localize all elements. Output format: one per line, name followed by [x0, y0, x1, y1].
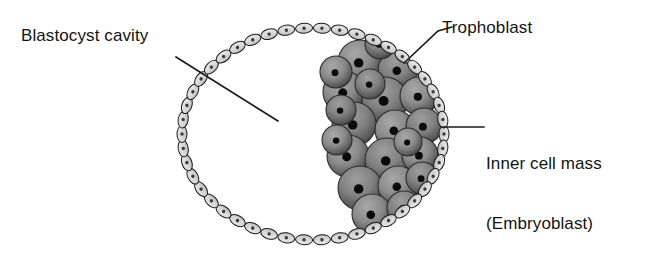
inner-cell-mass-group	[320, 29, 442, 234]
inner-cell-mass-cell	[320, 56, 352, 88]
cell-nucleus	[180, 132, 183, 135]
trophoblast-cell	[330, 24, 348, 37]
label-inner-cell-mass-line1: Inner cell mass	[486, 154, 602, 174]
inner-cell-mass-cells	[320, 29, 442, 234]
inner-cell-mass-cell	[394, 128, 422, 156]
blastocyst-diagram: Blastocyst cavity Trophoblast Inner cell…	[0, 0, 657, 262]
label-inner-cell-mass: Inner cell mass (Embryoblast)	[486, 114, 602, 262]
cell-nucleus	[418, 175, 425, 182]
trophoblast-cell	[277, 24, 295, 37]
cell-nucleus	[333, 137, 339, 143]
cell-nucleus	[354, 184, 363, 193]
cell-nucleus	[379, 96, 389, 106]
trophoblast-cell	[330, 231, 348, 244]
cell-nucleus	[404, 140, 410, 146]
cell-nucleus	[367, 211, 376, 220]
trophoblast-cell	[260, 27, 279, 41]
cell-nucleus	[419, 123, 427, 131]
trophoblast-cell	[313, 23, 331, 34]
cell-nucleus	[414, 93, 422, 101]
cell-nucleus	[442, 132, 445, 135]
trophoblast-cell	[295, 23, 313, 34]
cell-nucleus	[393, 67, 402, 76]
inner-cell-mass-cell	[322, 125, 352, 155]
trophoblast-cell	[277, 231, 295, 244]
trophoblast-cell	[313, 234, 331, 245]
cell-nucleus	[354, 58, 363, 67]
trophoblast-cell	[243, 32, 263, 48]
label-trophoblast: Trophoblast	[442, 18, 532, 38]
label-blastocyst-cavity: Blastocyst cavity	[21, 26, 148, 46]
inner-cell-mass-cell	[326, 95, 356, 125]
cell-nucleus	[381, 156, 390, 165]
label-inner-cell-mass-line2: (Embryoblast)	[486, 214, 602, 234]
inner-cell-mass-cell	[355, 69, 385, 99]
trophoblast-cell	[347, 27, 366, 41]
cell-nucleus	[332, 69, 339, 76]
trophoblast-cell	[295, 234, 313, 245]
trophoblast-cell	[260, 227, 279, 241]
cell-nucleus	[366, 81, 372, 87]
cell-nucleus	[337, 107, 343, 113]
trophoblast-cell	[243, 220, 263, 236]
cell-nucleus	[393, 183, 402, 192]
